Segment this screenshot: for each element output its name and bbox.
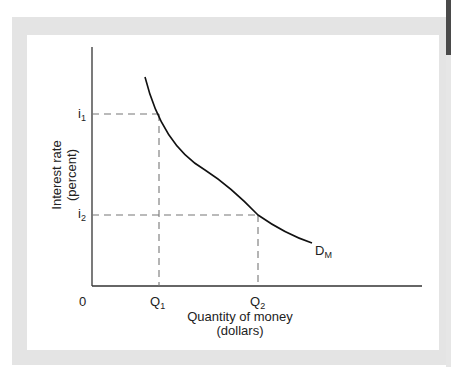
x-axis-title-line2: (dollars) xyxy=(170,324,310,338)
curve-label: DM xyxy=(315,244,332,257)
x-axis-title: Quantity of money (dollars) xyxy=(170,310,310,338)
money-demand-curve xyxy=(145,77,312,243)
i1-label: i1 xyxy=(78,107,86,120)
q1-label: Q1 xyxy=(150,295,165,308)
y-axis-title: Interest rate (percent) xyxy=(49,125,79,225)
y-axis-title-line1: Interest rate xyxy=(49,125,64,225)
x-axis-title-line1: Quantity of money xyxy=(170,310,310,324)
i2-label: i2 xyxy=(78,207,86,220)
origin-label: 0 xyxy=(79,295,86,308)
y-axis-title-line2: (percent) xyxy=(64,125,79,225)
q2-label: Q2 xyxy=(250,295,265,308)
